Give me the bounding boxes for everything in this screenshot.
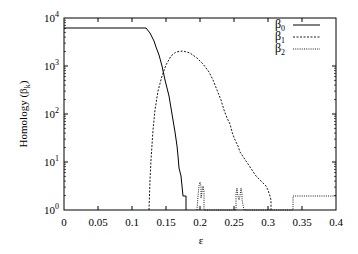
y-tick-4: 104	[44, 10, 59, 24]
y-major-ticks	[64, 66, 336, 162]
x-tick-6: 0.3	[261, 216, 275, 228]
x-tick-1: 0.05	[88, 216, 108, 228]
legend: β0 β1 β2	[275, 17, 320, 57]
plot-frame	[64, 18, 336, 210]
chart: 100 101 102 103 104 0 0.05 0.1 0.15	[0, 0, 358, 254]
x-tick-labels: 0 0.05 0.1 0.15 0.2 0.25 0.3 0.35 0.4	[61, 216, 343, 228]
x-tick-0: 0	[61, 216, 67, 228]
x-tick-7: 0.35	[292, 216, 312, 228]
x-tick-3: 0.15	[156, 216, 176, 228]
x-tick-8: 0.4	[329, 216, 343, 228]
y-tick-1: 101	[44, 154, 59, 168]
x-tick-2: 0.1	[125, 216, 139, 228]
y-minor-ticks	[64, 20, 336, 195]
y-axis-title: Homology (βk)	[17, 80, 32, 147]
series-beta0-line	[64, 28, 186, 210]
y-tick-labels: 100 101 102 103 104	[44, 10, 59, 216]
x-axis-title: ε	[199, 234, 204, 246]
x-tick-4: 0.2	[193, 216, 207, 228]
series-beta1-line	[149, 51, 271, 210]
x-tick-5: 0.25	[224, 216, 244, 228]
y-tick-3: 103	[44, 58, 59, 72]
x-ticks	[98, 18, 302, 210]
y-tick-0: 100	[44, 202, 59, 216]
y-tick-2: 102	[44, 106, 59, 120]
